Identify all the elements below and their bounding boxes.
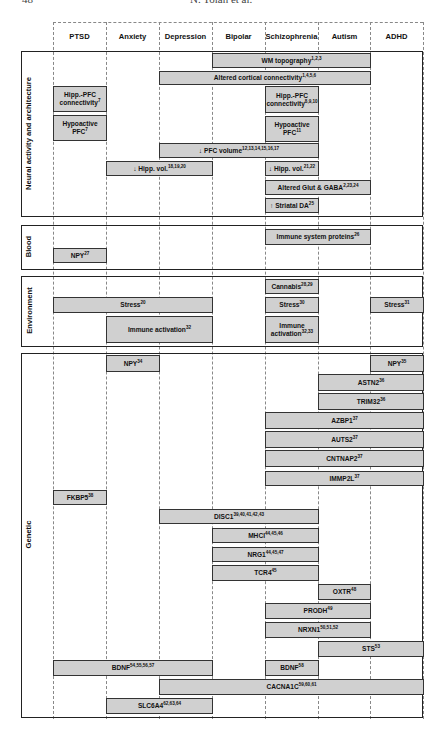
evidence-bar-azbp1-schizophrenia: AZBP137 [265, 412, 424, 429]
bar-references: 59,60,61 [299, 682, 317, 687]
bar-label: Hipp.-PFC connectivity [266, 92, 308, 107]
evidence-bar-pfc-volume-depression: ↓ PFC volume12,13,14,15,16,17 [159, 143, 319, 158]
bar-label: Altered cortical connectivity [214, 74, 302, 81]
section-label-neural-activity-and-architecture: Neural activity and architecture [21, 51, 37, 215]
evidence-bar-prodh-schizophrenia: PRODH49 [265, 603, 371, 619]
evidence-bar-altered-glut-gaba-schizophrenia: Altered Glut & GABA2,23,24 [265, 180, 371, 195]
bar-label: ↓ Hipp. vol. [269, 165, 304, 172]
bar-references: 37 [353, 416, 358, 421]
bar-references: 48 [351, 587, 356, 592]
bar-label: ↑ Striatal DA [270, 202, 309, 209]
evidence-bar-immune-system-proteins-schizophrenia: Immune system proteins26 [265, 229, 371, 245]
evidence-bar-astn2-autism: ASTN236 [318, 374, 424, 391]
bar-references: 30 [300, 300, 305, 305]
evidence-bar-hipp-vol-anxiety: ↓ Hipp. vol.18,19,20 [106, 161, 213, 176]
bar-label: STS [362, 645, 375, 652]
bar-label: Hypoactive PFC [274, 121, 309, 136]
column-header-autism: Autism [318, 24, 371, 48]
evidence-bar-hipp-pfc-connectivity-ptsd: Hipp.-PFC connectivity7 [53, 86, 107, 112]
bar-references: 8,9,10 [305, 98, 318, 103]
evidence-bar-tcr4-bipolar: TCR445 [212, 565, 319, 581]
bar-references: 49 [327, 606, 332, 611]
bar-references: 26 [354, 232, 359, 237]
bar-references: 2,23,24 [343, 183, 358, 188]
evidence-bar-immp2l-schizophrenia: IMMP2L37 [265, 471, 424, 486]
section-label-text: Genetic [25, 521, 34, 549]
evidence-bar-trim32-autism: TRIM3236 [318, 393, 424, 410]
bar-label: Stress [279, 301, 299, 308]
bar-references: 27 [84, 251, 89, 256]
bar-label: NRG1 [247, 551, 265, 558]
bar-label: Immune system proteins [277, 233, 355, 240]
evidence-bar-nrg1-bipolar: NRG144,45,47 [212, 547, 319, 562]
evidence-bar-mhci-bipolar: MHCI44,45,46 [212, 528, 319, 543]
column-header-adhd: ADHD [370, 24, 423, 48]
bar-label: SLC6A4 [138, 702, 163, 709]
bar-label: CNTNAP2 [326, 455, 357, 462]
bar-references: 11 [296, 128, 301, 133]
evidence-bar-hipp-vol-schizophrenia: ↓ Hipp. vol.21,22 [265, 161, 319, 176]
bar-label: NPY [124, 360, 138, 367]
bar-references: 20 [141, 300, 146, 305]
column-header-ptsd: PTSD [53, 24, 106, 48]
section-label-text: Environment [25, 287, 34, 333]
bar-references: 54,55,56,57 [130, 663, 154, 668]
evidence-bar-npy-ptsd: NPY27 [53, 248, 107, 263]
evidence-bar-immune-activation-schizophrenia: Immune activation32,33 [265, 316, 319, 343]
bar-references: 62,63,64 [163, 701, 181, 706]
evidence-bar-bdnf-schizophrenia: BDNF58 [265, 660, 319, 676]
bar-label: Hipp.-PFC connectivity [59, 91, 97, 106]
bar-label: AUTS2 [331, 436, 353, 443]
bar-label: BDNF [280, 664, 298, 671]
bar-references: 1,4,5,6 [302, 73, 316, 78]
bar-label: BDNF [112, 664, 130, 671]
evidence-bar-hipp-pfc-connectivity-schizophrenia: Hipp.-PFC connectivity8,9,10 [265, 86, 319, 113]
bar-references: 35 [401, 359, 406, 364]
bar-references: 58 [299, 663, 304, 668]
bar-references: 50,51,52 [320, 625, 338, 630]
evidence-bar-cntnap2-schizophrenia: CNTNAP237 [265, 450, 424, 467]
bar-references: 34 [137, 359, 142, 364]
bar-label: AZBP1 [331, 417, 353, 424]
bar-label: Immune activation [128, 326, 186, 333]
bar-label: ↓ Hipp. vol. [133, 165, 168, 172]
bar-references: 7 [85, 127, 88, 132]
evidence-bar-hypoactive-pfc-ptsd: Hypoactive PFC7 [53, 115, 107, 141]
bar-label: DISC1 [214, 513, 233, 520]
bar-label: PRODH [304, 607, 328, 614]
bar-references: 44,45,47 [266, 550, 284, 555]
bar-label: Immune activation [271, 322, 305, 337]
evidence-bar-oxtr-autism: OXTR48 [318, 584, 371, 600]
bar-references: 36 [380, 397, 385, 402]
evidence-bar-wm-topography-bipolar: WM topography1,2,3 [212, 53, 371, 68]
bar-references: 21,22 [304, 164, 316, 169]
evidence-bar-immune-activation-anxiety: Immune activation32 [106, 316, 213, 343]
bar-references: 25 [309, 201, 314, 206]
bar-references: 7 [98, 98, 101, 103]
evidence-bar-fkbp5-ptsd: FKBP538 [53, 490, 107, 505]
bar-label: Altered Glut & GABA [278, 184, 344, 191]
bar-label: FKBP5 [67, 494, 89, 501]
bar-label: Stress [384, 301, 404, 308]
bar-label: MHCI [248, 532, 265, 539]
evidence-bar-stress-adhd: Stress31 [370, 297, 424, 313]
bar-label: NRXN1 [298, 626, 320, 633]
page-number: 48 [22, 0, 33, 5]
section-label-text: Neural activity and architecture [25, 76, 34, 189]
bar-references: 28,29 [301, 282, 313, 287]
bar-label: WM topography [261, 57, 311, 64]
bar-references: 37 [358, 454, 363, 459]
bar-references: 32 [186, 325, 191, 330]
evidence-bar-cacna1c-depression: CACNA1C59,60,61 [159, 679, 424, 695]
evidence-bar-stress-schizophrenia: Stress30 [265, 297, 319, 313]
bar-references: 38 [88, 493, 93, 498]
bar-references: 36 [379, 378, 384, 383]
bar-references: 18,19,20 [168, 164, 186, 169]
evidence-bar-nrxn1-schizophrenia: NRXN150,51,52 [265, 622, 371, 638]
author-line: N. Tolan et al. [190, 0, 252, 5]
bar-label: Stress [120, 301, 140, 308]
column-header-depression: Depression [159, 24, 212, 48]
bar-references: 1,2,3 [311, 56, 321, 61]
header-top-gridline [53, 22, 423, 23]
bar-references: 37 [354, 474, 359, 479]
